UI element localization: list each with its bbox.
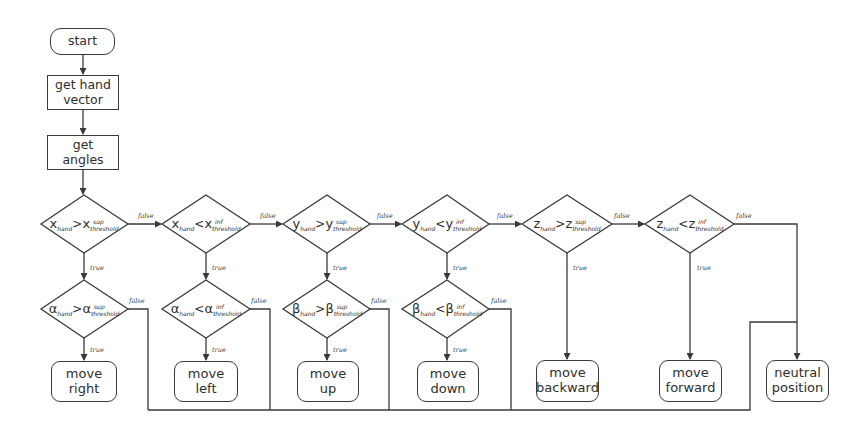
condition-beta-inf: βhand<βinfthreshold <box>412 301 482 317</box>
action-move-down: movedown <box>417 361 479 402</box>
action-neutral-position: neutralposition <box>766 360 829 402</box>
edge-label-false: false <box>736 212 752 220</box>
condition-x-sup: xhand>xsupthreshold <box>50 216 119 232</box>
action-move-left: moveleft <box>174 361 238 402</box>
action-move-backward: movebackward <box>536 360 599 402</box>
condition-beta-sup: βhand>βsupthreshold <box>292 301 362 317</box>
edge-label-false: false <box>377 212 393 220</box>
edge-label-false: false <box>138 212 154 220</box>
edge-label-false: false <box>371 297 387 305</box>
edge-label-false: false <box>497 212 513 220</box>
process-label-line2: angles <box>62 153 103 167</box>
condition-alpha-inf: αhand<αinfthreshold <box>171 301 242 317</box>
edge-label-false: false <box>491 297 507 305</box>
action-move-forward: moveforward <box>659 360 722 402</box>
condition-z-sup: zhand>zsupthreshold <box>533 216 600 232</box>
action-move-right: moveright <box>51 361 117 402</box>
edge-label-true: true <box>212 346 226 354</box>
condition-y-inf: yhand<yinfthreshold <box>413 216 482 232</box>
edge-label-true: true <box>453 346 467 354</box>
condition-alpha-sup: αhand>αsupthreshold <box>49 301 120 317</box>
edge-label-true: true <box>90 264 104 272</box>
edge-label-true: true <box>573 264 587 272</box>
edge-label-false: false <box>614 212 630 220</box>
action-move-up: moveup <box>297 361 359 402</box>
edge-label-true: true <box>453 264 467 272</box>
edge-label-true: true <box>333 264 347 272</box>
process-label-line1: get <box>62 138 103 152</box>
process-get-angles: get angles <box>47 135 119 170</box>
condition-x-inf: xhand<xinfthreshold <box>172 216 241 232</box>
process-get-hand-vector: get hand vector <box>47 75 119 110</box>
condition-z-inf: zhand<zinfthreshold <box>656 216 723 232</box>
edge-label-true: true <box>212 264 226 272</box>
edge-label-false: false <box>129 297 145 305</box>
edge-label-true: true <box>333 346 347 354</box>
edge-label-true: true <box>90 346 104 354</box>
edge-label-false: false <box>260 212 276 220</box>
process-label-line2: vector <box>55 93 111 107</box>
start-node: start <box>50 28 115 55</box>
process-label-line1: get hand <box>55 78 111 92</box>
start-label: start <box>68 34 97 48</box>
condition-y-sup: yhand>ysupthreshold <box>293 216 362 232</box>
edge-label-true: true <box>697 264 711 272</box>
edge-label-false: false <box>251 297 267 305</box>
